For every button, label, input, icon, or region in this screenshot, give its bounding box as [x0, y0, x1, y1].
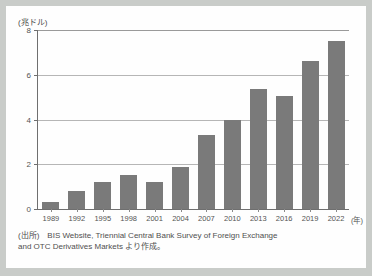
- bar-1995: [94, 182, 111, 209]
- bar-chart-figure: (兆ドル) 02468 1989199219951998200120042007…: [6, 6, 366, 268]
- bar-2001: [146, 182, 163, 209]
- x-axis-line: [37, 209, 349, 210]
- plot-area: 02468 1989199219951998200120042007201020…: [37, 30, 349, 209]
- bar-2004: [172, 167, 189, 210]
- x-tick-mark-1989: [51, 209, 52, 212]
- x-tick-mark-1998: [129, 209, 130, 212]
- y-tick-label-4: 4: [15, 115, 31, 124]
- x-tick-mark-2016: [284, 209, 285, 212]
- bar-2010: [224, 120, 241, 210]
- y-tick-label-2: 2: [15, 160, 31, 169]
- y-tick-label-0: 0: [15, 205, 31, 214]
- bar-2019: [302, 61, 319, 209]
- source-note-line-1: (出所) BIS Website, Triennial Central Bank…: [18, 230, 356, 241]
- x-tick-mark-1992: [77, 209, 78, 212]
- x-axis-unit-label: (年): [351, 214, 363, 225]
- screenshot-root: (兆ドル) 02468 1989199219951998200120042007…: [0, 0, 372, 276]
- y-tick-mark-0: [34, 209, 38, 210]
- bar-2022: [328, 41, 345, 209]
- bar-1998: [120, 175, 137, 209]
- source-note: (出所) BIS Website, Triennial Central Bank…: [18, 230, 356, 252]
- x-tick-mark-1995: [103, 209, 104, 212]
- x-tick-mark-2013: [258, 209, 259, 212]
- y-tick-label-6: 6: [15, 70, 31, 79]
- x-tick-mark-2019: [310, 209, 311, 212]
- x-tick-mark-2010: [232, 209, 233, 212]
- x-tick-mark-2004: [181, 209, 182, 212]
- x-tick-mark-2007: [206, 209, 207, 212]
- x-tick-mark-2001: [155, 209, 156, 212]
- bar-1989: [42, 202, 59, 209]
- x-tick-mark-2022: [336, 209, 337, 212]
- figure-card: (兆ドル) 02468 1989199219951998200120042007…: [6, 6, 366, 268]
- bar-2013: [250, 89, 267, 209]
- y-tick-label-8: 8: [15, 26, 31, 35]
- x-tick-label-2022: 2022: [319, 214, 353, 223]
- bars-group: [38, 30, 349, 209]
- bar-2016: [276, 96, 293, 209]
- bar-1992: [68, 191, 85, 209]
- bar-2007: [198, 135, 215, 209]
- source-note-line-2: and OTC Derivatives Markets より作成。: [18, 241, 356, 252]
